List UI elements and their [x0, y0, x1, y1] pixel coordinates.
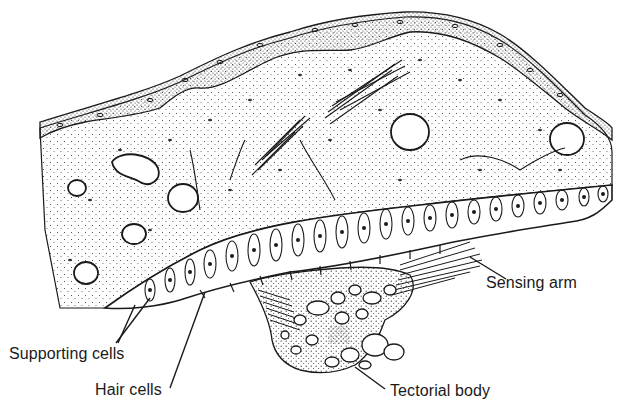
label-hair-cells: Hair cells	[95, 381, 162, 399]
tectorial-body	[250, 267, 413, 372]
label-tectorial-body: Tectorial body	[390, 382, 490, 400]
label-supporting-cells: Supporting cells	[9, 345, 124, 363]
label-sensing-arm: Sensing arm	[486, 274, 577, 292]
